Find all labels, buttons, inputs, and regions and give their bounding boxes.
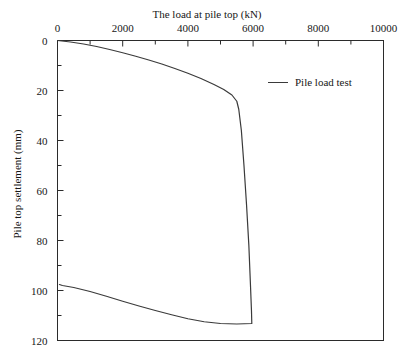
series-line-pile-load-test: [58, 41, 252, 325]
plot-area: [0, 0, 414, 364]
legend-label: Pile load test: [295, 76, 352, 88]
legend-line-swatch: [268, 82, 288, 83]
pile-load-test-chart: The load at pile top (kN) Pile top settl…: [0, 0, 414, 364]
data-series-group: [58, 41, 252, 325]
legend: Pile load test: [268, 76, 352, 88]
